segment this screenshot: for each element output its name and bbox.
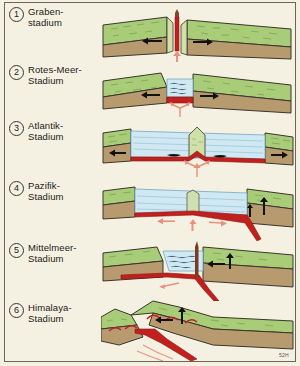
- panel-1-label: 1 Graben- stadium: [9, 7, 64, 28]
- panel-5: 5 Mittelmeer- Stadium: [5, 239, 297, 301]
- figure-code: 52H: [279, 352, 289, 358]
- panel-5-caption: Mittelmeer- Stadium: [28, 243, 77, 264]
- panel-4-scene: [101, 177, 297, 241]
- panel-4: 4 Pazifik- Stadium: [5, 177, 297, 241]
- panel-3-label: 3 Atlantik- Stadium: [9, 121, 64, 142]
- panel-6-label: 6 Himalaya- Stadium: [9, 303, 72, 324]
- figure-frame: 1 Graben- stadium: [4, 2, 296, 362]
- panel-3-caption: Atlantik- Stadium: [28, 121, 64, 142]
- panel-6: 6 Himalaya- Stadium: [5, 299, 297, 361]
- panel-1-number: 1: [9, 7, 24, 22]
- panel-5-number: 5: [9, 243, 24, 258]
- panel-4-label: 4 Pazifik- Stadium: [9, 181, 64, 202]
- panel-1-scene: [101, 3, 297, 63]
- panel-5-scene: [101, 239, 297, 301]
- panel-2-number: 2: [9, 65, 24, 80]
- panel-2: 2 Rotes-Meer- Stadium: [5, 61, 297, 119]
- panel-4-number: 4: [9, 181, 24, 196]
- panel-6-number: 6: [9, 303, 24, 318]
- figure-root: 1 Graben- stadium: [0, 0, 300, 366]
- panel-2-scene: [101, 61, 297, 119]
- panel-1-caption: Graben- stadium: [28, 7, 64, 28]
- panel-4-caption: Pazifik- Stadium: [28, 181, 64, 202]
- panel-6-scene: [101, 299, 297, 361]
- panel-6-caption: Himalaya- Stadium: [28, 303, 72, 324]
- panel-3: 3 Atlantik- Stadium: [5, 117, 297, 179]
- panel-3-number: 3: [9, 121, 24, 136]
- panel-1: 1 Graben- stadium: [5, 3, 297, 63]
- panel-3-scene: [101, 117, 297, 179]
- panel-2-label: 2 Rotes-Meer- Stadium: [9, 65, 82, 86]
- panel-5-label: 5 Mittelmeer- Stadium: [9, 243, 77, 264]
- panel-2-caption: Rotes-Meer- Stadium: [28, 65, 82, 86]
